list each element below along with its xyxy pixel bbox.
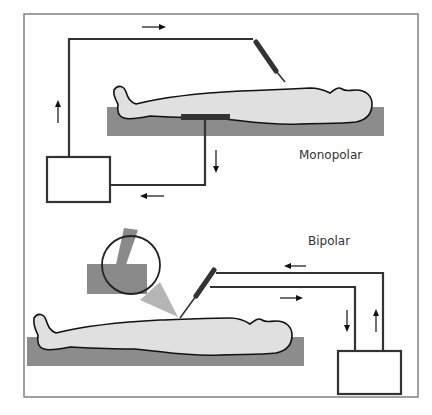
arrow-head: [159, 24, 166, 30]
bipolar-forceps-icon: [196, 270, 214, 296]
arrow-head: [344, 325, 350, 332]
arrow-head: [213, 166, 219, 173]
bipolar-label: Bipolar: [308, 234, 350, 248]
return-electrode-pad: [181, 114, 230, 120]
electrosurgery-diagram: [0, 0, 432, 415]
bipolar-section: [27, 228, 401, 394]
monopolar-label: Monopolar: [299, 148, 362, 162]
arrow-head: [296, 295, 303, 301]
monopolar-section: [47, 24, 384, 202]
monopolar-pencil-electrode-icon: [256, 42, 276, 71]
arrow-head: [284, 263, 291, 269]
bipolar-generator-box: [338, 351, 401, 394]
arrow-head: [140, 193, 147, 199]
arrow-head: [373, 309, 379, 316]
monopolar-electrode-tip: [276, 71, 285, 82]
arrow-head: [55, 100, 61, 107]
bipolar-forceps-tip: [180, 296, 196, 318]
monopolar-generator-box: [47, 157, 110, 202]
